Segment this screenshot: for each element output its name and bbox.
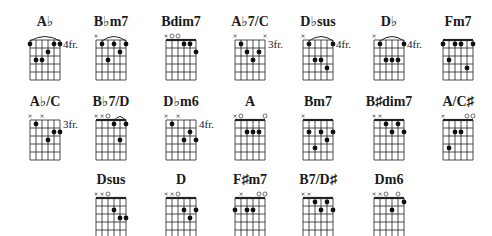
open-string-icon xyxy=(176,34,180,38)
fretboard-grid: × xyxy=(88,32,134,82)
chord-name: B♭m7 xyxy=(80,14,142,30)
finger-dot xyxy=(194,208,199,213)
chord-name: B♭7/D xyxy=(80,94,142,110)
finger-dot xyxy=(390,130,395,135)
fretboard-grid: × xyxy=(295,32,341,82)
finger-dot xyxy=(471,42,476,47)
fretboard-grid: ×× xyxy=(158,112,204,162)
finger-dot xyxy=(124,42,129,47)
finger-dot xyxy=(188,216,193,221)
finger-dot xyxy=(325,138,330,143)
open-string-icon xyxy=(471,114,475,118)
fretboard-grid: ×× xyxy=(88,190,134,236)
muted-string-icon: × xyxy=(440,112,445,119)
fretboard-grid: ×× xyxy=(88,112,134,162)
muted-string-icon: × xyxy=(93,32,98,39)
fretboard-grid: ×× xyxy=(22,112,68,162)
muted-string-icon: × xyxy=(377,190,382,197)
finger-dot xyxy=(319,130,324,135)
finger-dot xyxy=(396,122,401,127)
fretboard-grid: ×× xyxy=(295,190,341,236)
finger-dot xyxy=(245,130,250,135)
finger-dot xyxy=(459,42,464,47)
chord-name: Dm6 xyxy=(358,172,420,188)
muted-string-icon: × xyxy=(175,112,180,119)
open-string-icon xyxy=(465,114,469,118)
finger-dot xyxy=(245,50,250,55)
finger-dot xyxy=(251,208,256,213)
finger-dot xyxy=(182,208,187,213)
open-string-icon xyxy=(106,192,110,196)
muted-string-icon: × xyxy=(232,32,237,39)
finger-dot xyxy=(307,130,312,135)
finger-dot xyxy=(118,138,123,143)
finger-dot xyxy=(124,122,129,127)
finger-dot xyxy=(331,130,336,135)
muted-string-icon: × xyxy=(371,32,376,39)
finger-dot xyxy=(378,42,383,47)
finger-dot xyxy=(465,66,470,71)
muted-string-icon: × xyxy=(300,32,305,39)
chord-name: D♭ xyxy=(358,14,420,30)
finger-dot xyxy=(331,208,336,213)
finger-dot xyxy=(257,50,262,55)
chord-name: D♭sus xyxy=(287,14,349,30)
finger-dot xyxy=(188,130,193,135)
fretboard-grid: ×× xyxy=(227,32,273,82)
fretboard-grid: × xyxy=(295,112,341,162)
muted-string-icon: × xyxy=(371,190,376,197)
finger-dot xyxy=(257,130,262,135)
muted-string-icon: × xyxy=(99,112,104,119)
muted-string-icon: × xyxy=(93,112,98,119)
open-string-icon xyxy=(396,192,400,196)
finger-dot xyxy=(453,130,458,135)
finger-dot xyxy=(112,122,117,127)
fretboard-grid: ×× xyxy=(366,112,412,162)
finger-dot xyxy=(447,146,452,151)
fretboard-grid xyxy=(435,32,481,82)
muted-string-icon: × xyxy=(262,32,267,39)
fretboard-grid: × xyxy=(227,190,273,236)
chord-name: B♯dim7 xyxy=(358,94,420,110)
chord-name: Dsus xyxy=(80,172,142,188)
open-string-icon xyxy=(384,192,388,196)
open-string-icon xyxy=(257,192,261,196)
chord-name: Bm7 xyxy=(287,94,349,110)
muted-string-icon: × xyxy=(238,190,243,197)
finger-dot xyxy=(402,200,407,205)
chord-name: D♭m6 xyxy=(150,94,212,110)
finger-dot xyxy=(319,58,324,63)
muted-string-icon: × xyxy=(306,190,311,197)
chord-name: D xyxy=(150,172,212,188)
finger-dot xyxy=(319,208,324,213)
muted-string-icon: × xyxy=(93,190,98,197)
finger-dot xyxy=(245,208,250,213)
muted-string-icon: × xyxy=(371,112,376,119)
finger-dot xyxy=(402,42,407,47)
finger-dot xyxy=(112,42,117,47)
fret-position-label: 4fr. xyxy=(336,39,351,50)
fretboard-grid: × xyxy=(366,32,412,82)
chord-name: F♯m7 xyxy=(219,172,281,188)
fret-position-label: 4fr. xyxy=(407,39,422,50)
finger-dot xyxy=(170,122,175,127)
muted-string-icon: × xyxy=(163,32,168,39)
finger-dot xyxy=(34,122,39,127)
open-string-icon xyxy=(106,114,110,118)
finger-dot xyxy=(325,66,330,71)
open-string-icon xyxy=(263,114,267,118)
fret-position-label: 3fr. xyxy=(268,39,283,50)
muted-string-icon: × xyxy=(169,190,174,197)
muted-string-icon: × xyxy=(163,190,168,197)
fretboard-grid xyxy=(22,32,68,82)
fretboard-grid: × xyxy=(227,112,273,162)
chord-name: Bdim7 xyxy=(150,14,212,30)
chord-name: A♭7/C xyxy=(219,14,281,30)
finger-dot xyxy=(402,130,407,135)
finger-dot xyxy=(313,58,318,63)
muted-string-icon: × xyxy=(300,190,305,197)
chord-name: Fm7 xyxy=(427,14,489,30)
finger-dot xyxy=(441,42,446,47)
finger-dot xyxy=(313,200,318,205)
finger-dot xyxy=(118,50,123,55)
